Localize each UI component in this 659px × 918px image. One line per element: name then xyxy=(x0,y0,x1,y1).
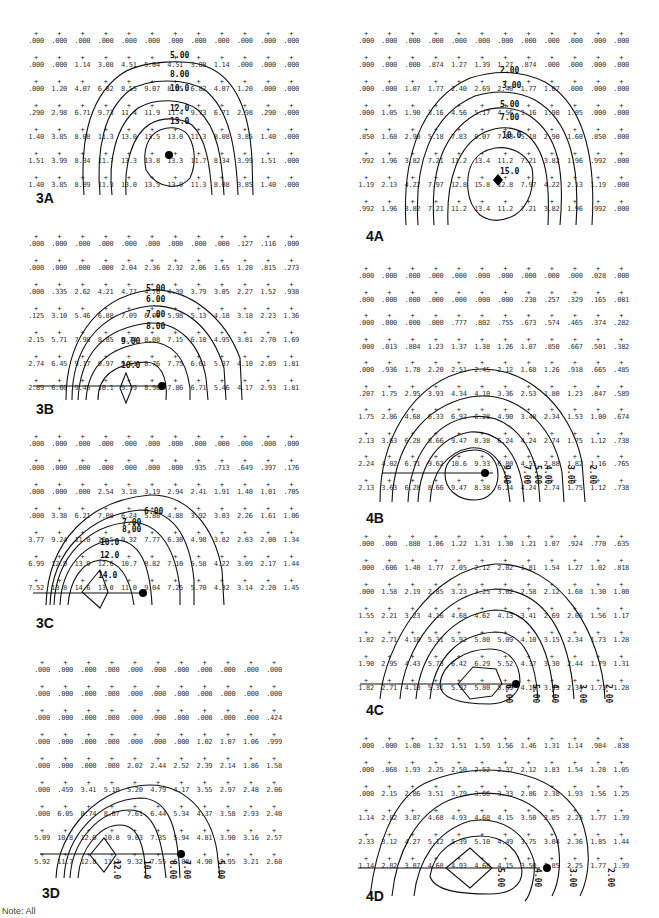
contours-4b: 9.00 7.00 5.00 4.00 3.00 2.00 xyxy=(330,262,659,514)
source-point-marker xyxy=(139,589,147,597)
contour-label: 5.00 xyxy=(146,284,165,293)
source-point-marker xyxy=(177,850,185,858)
contour-label: 10.0 xyxy=(502,131,521,140)
panel-3c: +.000+.000+.000+.000+.000+.000+.000+.000… xyxy=(0,430,330,630)
contour-label: 6.00 xyxy=(144,507,163,516)
panel-label: 3B xyxy=(36,401,54,417)
contour-label: 10.0 xyxy=(170,84,189,93)
contour-label: 8.00 xyxy=(170,70,189,79)
contour-label: 8.00 xyxy=(168,860,177,879)
contour-label: 13.0 xyxy=(170,117,189,126)
contour-label: 12.0 xyxy=(170,104,189,113)
contour-label: 7.00 xyxy=(182,860,191,879)
contour-label: 10.0 xyxy=(100,538,119,547)
contour-label: 5.00 xyxy=(496,868,505,887)
panel-3a: +.000+.000+.000+.000+.000+.000+.000+.000… xyxy=(0,0,330,200)
contours-4a: 2.00 3.00 5.00 7.00 10.0 15.0 xyxy=(330,0,659,240)
panel-4b: +.000+.000+.000+.000+.000+.000+.000+.000… xyxy=(330,262,659,514)
contour-label: 12.0 xyxy=(100,551,119,560)
panel-label: 3D xyxy=(42,885,60,901)
contour-label: 3.00 xyxy=(566,465,575,484)
contour-label: 5.00 xyxy=(170,51,189,60)
panel-label: 4A xyxy=(366,228,384,244)
panel-3b: +.000+.000+.000+.000+.000+.000+.000+.000… xyxy=(0,228,330,408)
panel-4c: +.000+.000+.880+1.06+1.22+1.31+1.30+1.21… xyxy=(330,534,659,714)
contour-label: 3.00 xyxy=(568,868,577,887)
contour-label: 6.00 xyxy=(146,295,165,304)
contour-label: 7.00 xyxy=(522,465,531,484)
contour-label: 5.00 xyxy=(531,684,540,703)
contour-label: 5.00 xyxy=(216,860,225,879)
contour-label: 2.00 xyxy=(588,465,597,484)
panel-4d: +.000+.000+1.08+1.32+1.51+1.59+1.56+1.46… xyxy=(330,736,659,906)
contour-label: 7.00 xyxy=(146,310,165,319)
panel-label: 3C xyxy=(36,615,54,631)
contour-label: 3.00 xyxy=(578,684,587,703)
contour-label: 6.00 xyxy=(504,684,513,703)
contour-label: 15.0 xyxy=(500,167,519,176)
contour-label: 2.00 xyxy=(604,684,613,703)
footnote: Note: All xyxy=(2,906,36,916)
contours-4d: 5.00 4.00 3.00 2.00 xyxy=(330,736,659,906)
panel-label: 3A xyxy=(36,190,54,206)
panel-4a: +.000+.000+.000+.000+.000+.000+.000+.000… xyxy=(330,0,659,240)
source-point-marker xyxy=(165,151,173,159)
contour-label: 7.00 xyxy=(500,113,519,122)
contour-label: 12.0 xyxy=(112,860,121,879)
contours-3c: 6.00 7.00 8.00 10.0 12.0 14.0 xyxy=(0,430,330,630)
source-point-marker xyxy=(481,469,489,477)
contour-label: 2.00 xyxy=(606,868,615,887)
contour-label: 4.00 xyxy=(550,684,559,703)
source-point-marker xyxy=(158,382,166,390)
contour-label: 4.00 xyxy=(543,465,552,484)
contour-label: 8.00 xyxy=(122,525,141,534)
contour-label: 10.0 xyxy=(142,860,151,879)
contour-label: 9.00 xyxy=(502,465,511,484)
contour-label: 10.0 xyxy=(121,361,140,370)
contour-label: 8.00 xyxy=(146,322,165,331)
source-point-marker xyxy=(543,864,551,872)
panel-label: 4C xyxy=(366,702,384,718)
contours-3b: 5.00 6.00 7.00 8.00 9.00 10.0 xyxy=(0,228,330,408)
panel-label: 4B xyxy=(366,510,384,526)
contours-4c: 6.00 5.00 4.00 3.00 2.00 xyxy=(330,534,659,714)
contour-label: 3.00 xyxy=(502,81,521,90)
panel-3d: +.000+.000+.000+.000+.000+.000+.000+.000… xyxy=(0,660,330,910)
contour-label: 14.0 xyxy=(98,571,117,580)
contours-3d: 12.0 10.0 8.00 7.00 5.00 xyxy=(0,660,330,910)
contour-label: 4.00 xyxy=(533,868,542,887)
panel-label: 4D xyxy=(366,888,384,904)
contours-3a: 5.00 8.00 10.0 12.0 13.0 xyxy=(0,0,330,200)
contour-label: 5.00 xyxy=(533,465,542,484)
contour-label: 2.00 xyxy=(500,66,519,75)
source-point-marker xyxy=(512,680,520,688)
contour-label: 5.00 xyxy=(500,100,519,109)
contour-label: 9.00 xyxy=(121,337,140,346)
